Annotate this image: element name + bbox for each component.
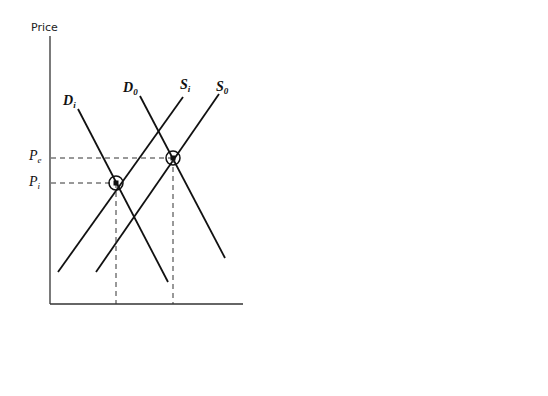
label-si: Si — [180, 77, 191, 94]
demand-curve-di — [78, 109, 168, 282]
demand-curve-d0 — [140, 96, 225, 258]
price-tick-upper: Pe — [28, 148, 42, 165]
label-s0: S0 — [216, 79, 229, 96]
panel-a: Price Di D0 Si S0 Pe Pi — [28, 21, 243, 304]
supply-curve-si — [58, 97, 183, 272]
label-di: Di — [62, 93, 76, 110]
y-axis-label: Price — [31, 21, 58, 34]
price-tick-lower: Pi — [28, 174, 41, 191]
label-d0: D0 — [122, 80, 138, 97]
supply-demand-diagrams: Price Di D0 Si S0 Pe Pi — [0, 0, 548, 396]
